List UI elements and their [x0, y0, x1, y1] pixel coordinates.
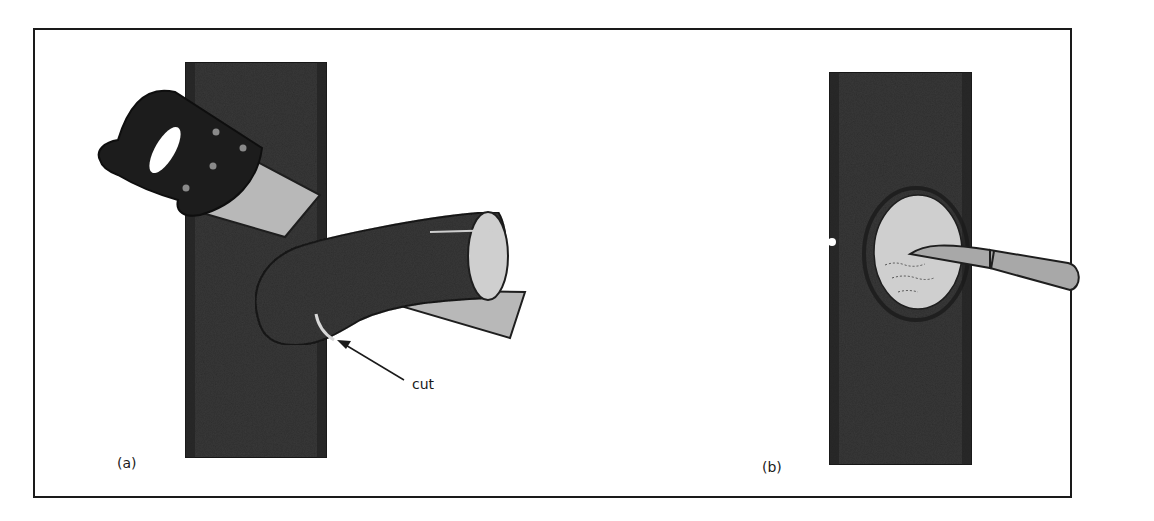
panel-a — [99, 62, 525, 458]
panel-a-label: (a) — [117, 455, 137, 471]
cut-callout-arrow — [344, 344, 404, 380]
cut-callout-label: cut — [412, 376, 434, 392]
branch-cut-face — [468, 212, 508, 300]
figure-illustration — [0, 0, 1154, 521]
panel-b — [828, 72, 1079, 465]
panel-b-label: (b) — [762, 459, 782, 475]
knife-handle — [990, 250, 1079, 290]
